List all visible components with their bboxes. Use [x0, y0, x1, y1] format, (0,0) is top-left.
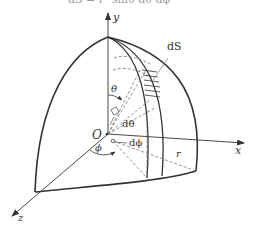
- right-outer-arc: [108, 37, 197, 171]
- y-axis-label: y: [112, 11, 120, 24]
- dS-label: dS: [167, 40, 182, 53]
- phi-arc: [90, 150, 115, 155]
- sphere-octant: [35, 37, 197, 192]
- clipped-equation: dS = r² sinθ dθ dφ: [68, 0, 171, 6]
- z-axis: [12, 134, 108, 216]
- theta-arc: [108, 95, 122, 100]
- left-outer-arc: [35, 37, 108, 192]
- d-theta-label: dθ: [122, 118, 134, 129]
- theta-label: θ: [111, 83, 117, 94]
- d-theta-wedge: [110, 107, 119, 125]
- origin-point: [106, 133, 109, 136]
- bottom-arc: [35, 171, 196, 192]
- d-phi-leader: [115, 142, 127, 143]
- origin-label: O: [92, 128, 102, 142]
- d-phi-marker: [111, 139, 115, 143]
- spherical-coordinates-diagram: dS = r² sinθ dθ dφ: [0, 0, 253, 228]
- radius-label: r: [176, 148, 182, 159]
- x-axis-label: x: [235, 144, 242, 157]
- d-phi-label: dϕ: [129, 137, 142, 148]
- z-axis-label: z: [17, 212, 24, 223]
- phi-label: ϕ: [95, 142, 102, 153]
